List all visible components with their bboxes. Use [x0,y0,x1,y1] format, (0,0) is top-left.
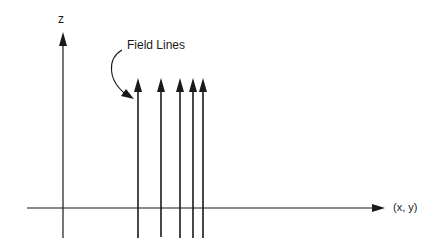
field-line [157,78,165,237]
xy-axis [27,204,385,212]
field-line [189,78,197,238]
annotation-pointer [111,50,134,99]
field-line [134,78,142,238]
field-line [176,78,184,238]
xy-axis-arrowhead-icon [372,204,385,212]
field-line-arrowhead-icon [189,78,197,92]
field-line [199,78,207,238]
xy-axis-label: (x, y) [393,201,417,213]
field-line-arrowhead-icon [134,78,142,92]
field-line-arrowhead-icon [176,78,184,92]
z-axis-arrowhead-icon [59,32,67,46]
z-axis-label: z [58,12,64,26]
annotation-arrowhead-icon [121,89,134,99]
field-line-arrowhead-icon [199,78,207,92]
field-line-arrowhead-icon [157,78,165,92]
field-lines [134,78,207,238]
z-axis [59,32,67,238]
diagram-canvas [0,0,437,247]
field-lines-label: Field Lines [127,38,185,52]
